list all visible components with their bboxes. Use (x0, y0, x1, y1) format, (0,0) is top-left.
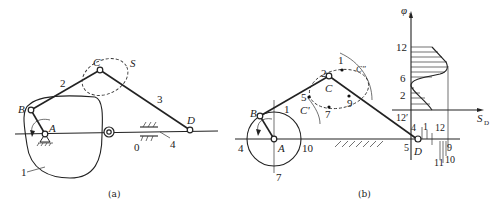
label-d: D (186, 114, 195, 126)
svg-text:1: 1 (423, 121, 428, 132)
sd-label: S (477, 112, 483, 124)
joint-a (42, 131, 48, 137)
link-ab (260, 116, 274, 139)
svg-text:7: 7 (325, 108, 331, 120)
svg-text:11: 11 (434, 157, 444, 168)
figure-b: φ 1 S D 2 6 12 B A C D C' C″ 1 4 7 10 1 … (235, 4, 489, 199)
svg-text:4: 4 (411, 122, 416, 133)
label-link-4: 4 (170, 138, 176, 150)
svg-text:12: 12 (396, 41, 407, 53)
svg-text:9: 9 (447, 142, 452, 153)
arc-c-prime (308, 98, 320, 124)
svg-text:4: 4 (238, 142, 244, 154)
joint-d (187, 127, 193, 133)
svg-text:2: 2 (400, 89, 406, 101)
link-cd (329, 76, 417, 139)
svg-text:D: D (413, 145, 422, 157)
link-bc (31, 70, 100, 110)
svg-text:D: D (484, 119, 489, 127)
mechanism-diagram: B A C S D 2 3 4 0 1 (a) (0, 0, 498, 215)
svg-text:10: 10 (302, 142, 314, 154)
cam-body (24, 96, 102, 178)
svg-text:9: 9 (347, 97, 353, 109)
svg-text:B: B (250, 107, 257, 119)
phi-label: φ (401, 4, 407, 16)
svg-text:C: C (325, 82, 333, 94)
joint-c (97, 67, 103, 73)
svg-text:5: 5 (404, 142, 409, 153)
joint-d (415, 136, 421, 142)
displacement-curve (411, 47, 447, 110)
caption-b: (b) (358, 189, 371, 199)
arc-c-double-prime (340, 53, 372, 100)
svg-text:12′: 12′ (396, 112, 408, 123)
svg-text:1: 1 (408, 11, 412, 19)
label-s: S (130, 57, 136, 69)
label-link-2: 2 (60, 77, 66, 89)
coupler-curve-s (76, 51, 134, 102)
displacement-graph: φ 1 S D 2 6 12 (392, 4, 489, 160)
svg-text:6: 6 (400, 72, 406, 84)
label-link-3: 3 (157, 93, 163, 105)
svg-text:1: 1 (284, 103, 290, 115)
svg-text:C″: C″ (356, 64, 366, 74)
svg-text:1: 1 (338, 54, 344, 66)
joint-c (326, 73, 332, 79)
label-frame-0: 0 (134, 141, 140, 153)
svg-text:2: 2 (321, 67, 327, 79)
svg-text:C': C' (300, 104, 310, 116)
svg-text:7: 7 (276, 171, 282, 183)
svg-text:A: A (277, 142, 285, 154)
label-link-1: 1 (21, 166, 27, 178)
joint-b (28, 107, 34, 113)
caption-a: (a) (108, 189, 120, 199)
label-a: A (48, 122, 56, 134)
link-ab (31, 110, 45, 134)
label-b: B (18, 103, 25, 115)
svg-text:10: 10 (445, 154, 455, 165)
svg-text:5: 5 (301, 91, 307, 103)
link-bc (260, 76, 329, 116)
ground-hatch (335, 141, 383, 147)
joint-b (257, 113, 263, 119)
joint-a (271, 136, 277, 142)
link-cd (100, 70, 190, 130)
svg-text:12: 12 (435, 122, 445, 133)
label-c: C (93, 56, 101, 68)
figure-a: B A C S D 2 3 4 0 1 (a) (15, 51, 218, 199)
